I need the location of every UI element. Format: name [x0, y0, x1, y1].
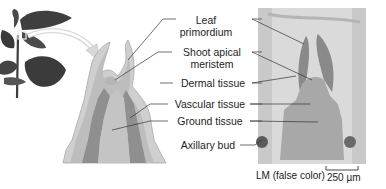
shoot-tip-diagram [63, 40, 166, 163]
label-dermal-tissue: Dermal tissue [174, 77, 252, 89]
micrograph-caption: LM (false color) [256, 170, 325, 181]
label-shoot-apical-meristem: Shoot apical meristem [174, 46, 250, 70]
label-ground-tissue: Ground tissue [171, 115, 249, 127]
scale-bar-label: 250 µm [327, 172, 361, 183]
label-leaf-primordium: Leaf primordium [178, 14, 234, 38]
label-shoot-apical-meristem-line1: Shoot apical [174, 46, 250, 58]
light-micrograph [256, 8, 366, 164]
label-axillary-bud: Axillary bud [176, 139, 240, 151]
scale-bar [326, 166, 358, 170]
label-dermal-tissue-text: Dermal tissue [174, 77, 252, 89]
label-leaf-primordium-line1: Leaf [178, 14, 234, 26]
label-leaf-primordium-line2: primordium [178, 26, 234, 38]
label-vascular-tissue: Vascular tissue [169, 98, 251, 110]
label-axillary-bud-text: Axillary bud [176, 139, 240, 151]
label-ground-tissue-text: Ground tissue [171, 115, 249, 127]
label-shoot-apical-meristem-line2: meristem [174, 58, 250, 70]
label-vascular-tissue-text: Vascular tissue [169, 98, 251, 110]
